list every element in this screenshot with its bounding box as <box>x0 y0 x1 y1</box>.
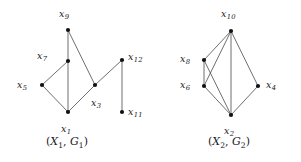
edges-layer <box>42 30 258 115</box>
graph-caption-G2: (X2, G2) <box>208 136 250 147</box>
vertex-label-base: x <box>17 79 22 90</box>
caption-x-symbol: X <box>50 135 58 148</box>
vertex-label-x6: x6 <box>180 80 190 90</box>
graph-edge-x3-x12 <box>95 60 122 85</box>
graph-caption-G1: (X1, G1) <box>46 136 88 147</box>
vertex-label-base: x <box>59 8 64 19</box>
vertex-label-x7: x7 <box>37 51 47 61</box>
graph-vertex-x5 <box>40 83 44 87</box>
vertex-label-base: x <box>128 51 133 62</box>
graph-vertex-x7 <box>66 59 70 63</box>
graph-edge-x10-x4 <box>231 31 258 86</box>
graph-edge-x10-x6 <box>204 31 231 86</box>
vertex-label-subscript: 3 <box>97 102 101 110</box>
vertex-label-base: x <box>61 123 66 134</box>
caption-comma: , <box>63 135 70 148</box>
graph-vertex-x8 <box>202 58 206 62</box>
vertex-label-subscript: 8 <box>186 58 190 66</box>
graph-edge-x9-x3 <box>68 30 95 85</box>
graph-vertex-x11 <box>120 110 124 114</box>
caption-g-symbol: G <box>70 135 79 148</box>
caption-g-subscript: 2 <box>241 141 246 150</box>
vertex-label-base: x <box>180 79 185 90</box>
graph-edge-x4-x2 <box>231 86 258 115</box>
vertex-label-base: x <box>37 50 42 61</box>
caption-close-paren: ) <box>246 135 250 148</box>
caption-comma: , <box>225 135 232 148</box>
caption-x-subscript: 1 <box>58 141 63 150</box>
graph-vertex-x9 <box>66 28 70 32</box>
caption-g-subscript: 1 <box>79 141 84 150</box>
vertex-label-base: x <box>266 79 271 90</box>
vertex-label-x1: x1 <box>61 124 71 134</box>
caption-close-paren: ) <box>84 135 88 148</box>
vertex-label-x8: x8 <box>180 54 190 64</box>
vertex-label-x11: x11 <box>128 107 142 117</box>
vertex-label-base: x <box>128 106 133 117</box>
vertex-label-x12: x12 <box>128 52 142 62</box>
caption-x-subscript: 2 <box>220 141 225 150</box>
vertex-label-x9: x9 <box>59 9 69 19</box>
vertex-label-base: x <box>91 97 96 108</box>
vertex-label-subscript: 5 <box>23 84 27 92</box>
graph-vertex-x4 <box>256 84 260 88</box>
graph-vertex-x6 <box>202 84 206 88</box>
graph-edge-x6-x2 <box>204 86 231 115</box>
graph-edge-x5-x1 <box>42 85 68 112</box>
graph-vertex-x3 <box>93 83 97 87</box>
vertex-label-subscript: 6 <box>186 84 190 92</box>
vertex-label-subscript: 12 <box>134 56 143 64</box>
vertex-label-subscript: 9 <box>65 13 69 21</box>
vertex-label-subscript: 10 <box>227 13 236 21</box>
caption-x-symbol: X <box>212 135 220 148</box>
graph-vertex-x1 <box>66 110 70 114</box>
graph-vertex-x10 <box>229 29 233 33</box>
vertex-label-x10: x10 <box>221 9 235 19</box>
vertex-label-x3: x3 <box>91 98 101 108</box>
vertex-label-x5: x5 <box>17 80 27 90</box>
vertex-label-base: x <box>221 8 226 19</box>
graph-edge-x10-x8 <box>204 31 231 60</box>
graph-figure: x9x7x5x3x1x12x11x10x8x6x4x2 (X1, G1)(X2,… <box>0 0 301 162</box>
vertices-layer <box>40 28 260 117</box>
graph-edge-x8-x2 <box>204 60 231 115</box>
vertex-label-x4: x4 <box>266 80 276 90</box>
vertex-label-subscript: 4 <box>272 84 276 92</box>
vertex-label-subscript: 7 <box>43 55 47 63</box>
vertex-label-subscript: 11 <box>134 111 143 119</box>
graph-edge-x7-x5 <box>42 61 68 85</box>
graph-vertex-x12 <box>120 58 124 62</box>
vertex-label-base: x <box>180 53 185 64</box>
caption-g-symbol: G <box>232 135 241 148</box>
graph-vertex-x2 <box>229 113 233 117</box>
